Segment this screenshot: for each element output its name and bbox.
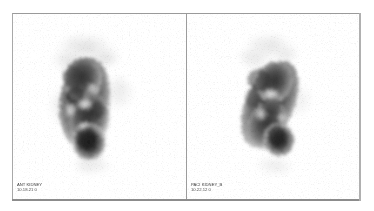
scan-image-right bbox=[187, 14, 361, 200]
scan-panel-right[interactable]: PACI KIDNEY_B 10.22.12 0 bbox=[187, 14, 361, 200]
annotation-left: ANT KIDNEY 10.18.21 0 bbox=[17, 182, 42, 192]
annotation-right: PACI KIDNEY_B 10.22.12 0 bbox=[191, 182, 222, 192]
image-frame: ANT KIDNEY 10.18.21 0 bbox=[12, 13, 361, 201]
frame-bottom-rule bbox=[12, 199, 361, 201]
annotation-left-line2: 10.18.21 0 bbox=[17, 187, 42, 192]
frame-right-rule bbox=[359, 13, 361, 201]
scan-panel-left[interactable]: ANT KIDNEY 10.18.21 0 bbox=[13, 14, 186, 200]
scintigraphy-viewer: ANT KIDNEY 10.18.21 0 bbox=[0, 0, 374, 211]
annotation-right-line2: 10.22.12 0 bbox=[191, 187, 222, 192]
scan-image-left bbox=[13, 14, 186, 200]
